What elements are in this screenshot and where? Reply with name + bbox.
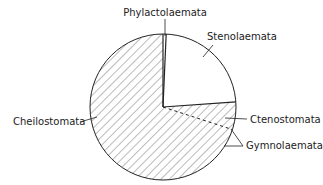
label-phylactolaemata: Phylactolaemata [123,7,207,36]
slice-stenolaemata [163,34,236,107]
pie-slices [90,34,236,180]
label-gymnolaemata: Gymnolaemata [224,129,323,151]
ctenostomata-label: Ctenostomata [250,114,321,125]
stenolaemata-label: Stenolaemata [207,31,277,42]
gymnolaemata-label: Gymnolaemata [246,140,323,151]
label-stenolaemata: Stenolaemata [203,31,277,57]
phylactolaemata-label: Phylactolaemata [123,7,207,18]
label-cheilostomata: Cheilostomata [13,116,97,127]
label-ctenostomata: Ctenostomata [225,114,321,125]
cheilostomata-label: Cheilostomata [13,116,85,127]
pie-chart: Phylactolaemata Stenolaemata Ctenostomat… [0,0,323,185]
